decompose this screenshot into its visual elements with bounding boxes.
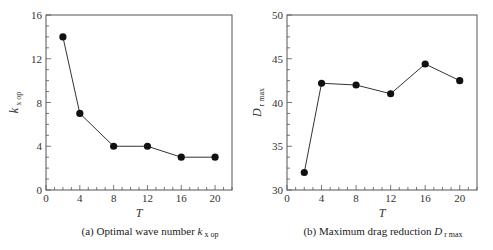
data-point-marker [76,110,83,117]
caption-var: D [433,225,442,237]
figure-caption: (a) Optimal wave number k x op [82,225,219,239]
x-tick-label: 0 [284,192,290,204]
x-tick-label: 0 [43,192,49,204]
x-tick-label: 4 [319,192,325,204]
x-tick-label: 16 [420,192,432,204]
y-tick-label: 0 [37,184,43,196]
y-axis-label: k x op [7,92,23,113]
y-tick-label: 12 [31,53,42,65]
data-point-marker [422,60,429,67]
data-point-marker [144,143,151,150]
y-axis-label-var: D [250,108,264,118]
y-axis-label-sub: r max [257,88,266,108]
chart-optimal-wave-number: 0481216200481216Tk x op(a) Optimal wave … [7,9,232,239]
x-tick-label: 20 [210,192,222,204]
x-tick-label: 20 [454,192,466,204]
y-tick-label: 40 [272,97,284,109]
caption-sub: r max [442,230,462,239]
data-point-marker [387,90,394,97]
y-tick-label: 16 [31,9,43,21]
data-point-marker [456,77,463,84]
x-tick-label: 12 [142,192,153,204]
data-point-marker [178,154,185,161]
chart-max-drag-reduction: 0481216203035404550TD r max(b) Maximum d… [250,9,477,239]
x-tick-label: 12 [385,192,396,204]
caption-text: (a) Optimal wave number [82,225,198,238]
series-line [63,37,215,157]
data-point-marker [59,33,66,40]
y-tick-label: 8 [37,97,43,109]
y-axis-label-sub: x op [14,92,23,108]
y-axis-label: D r max [250,88,266,118]
x-tick-label: 4 [77,192,83,204]
x-axis-label: T [136,206,144,220]
data-point-marker [211,154,218,161]
y-tick-label: 30 [272,184,284,196]
x-axis-label: T [379,206,387,220]
data-point-marker [318,80,325,87]
figure-caption: (b) Maximum drag reduction D r max [303,225,462,239]
y-tick-label: 35 [272,140,284,152]
data-point-marker [301,169,308,176]
x-tick-label: 16 [176,192,188,204]
series-line [304,64,459,173]
x-tick-label: 8 [353,192,359,204]
plot-frame [46,15,232,190]
figure: 0481216200481216Tk x op(a) Optimal wave … [0,0,493,250]
y-tick-label: 50 [272,9,284,21]
data-point-marker [352,81,359,88]
caption-sub: x op [202,230,218,239]
plot-frame [287,15,477,190]
x-tick-label: 8 [111,192,117,204]
y-tick-label: 45 [272,53,284,65]
y-tick-label: 4 [37,140,43,152]
data-point-marker [110,143,117,150]
caption-text: (b) Maximum drag reduction [303,225,434,238]
